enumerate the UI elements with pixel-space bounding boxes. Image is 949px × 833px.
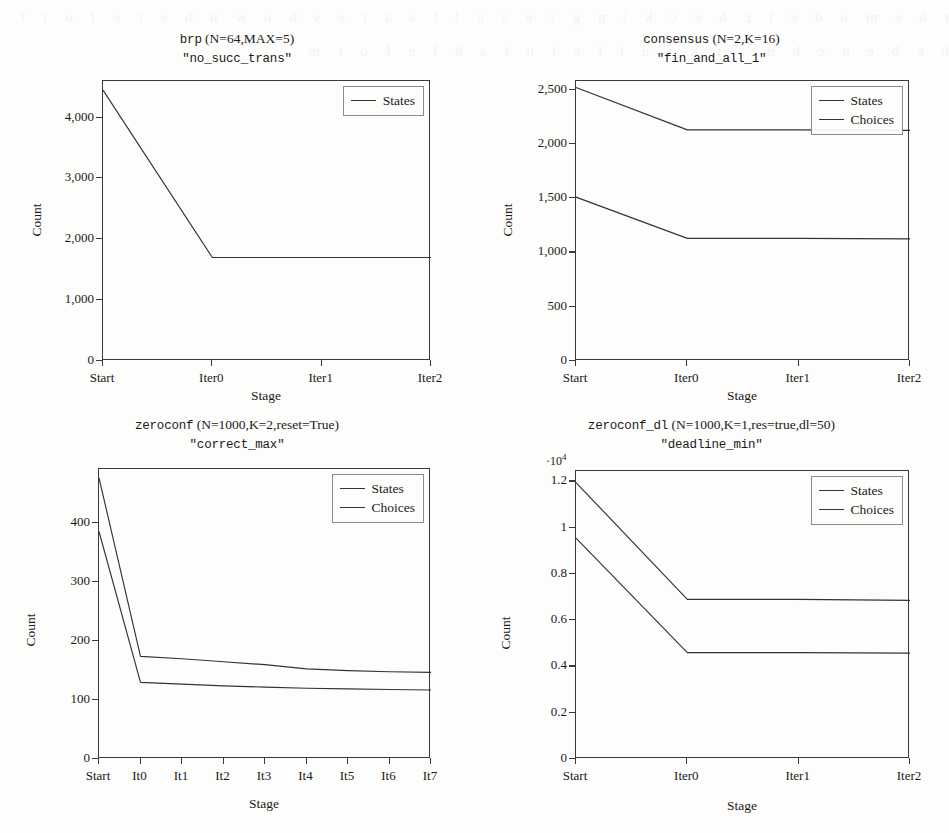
chart-title-block: zeroconf_dl (N=1000,K=1,res=true,dl=50) …	[474, 416, 949, 453]
chart-subtitle: "fin_and_all_1"	[474, 49, 949, 68]
x-axis-tick-mark	[181, 758, 182, 764]
chart-panel-consensus: consensus (N=2,K=16) "fin_and_all_1" Cou…	[474, 0, 949, 400]
chart-title-mono: zeroconf	[135, 419, 193, 433]
x-axis-tick-mark	[264, 758, 265, 764]
series-line-states	[576, 197, 910, 239]
y-axis-tick-mark	[96, 299, 102, 300]
series-canvas	[103, 81, 431, 361]
x-axis-tick-mark	[211, 360, 212, 366]
chart-legend: StatesChoices	[811, 476, 904, 525]
y-axis-tick-mark	[569, 573, 575, 574]
x-axis-tick-label: It6	[381, 768, 395, 784]
y-axis-tick-label: 400	[32, 514, 90, 530]
y-axis-tick-mark	[569, 306, 575, 307]
chart-panel-brp: brp (N=64,MAX=5) "no_succ_trans" Count S…	[0, 0, 474, 400]
x-axis-tick-label: It0	[132, 768, 146, 784]
legend-label: States	[851, 483, 883, 499]
chart-subtitle: "deadline_min"	[474, 435, 949, 454]
y-axis-tick-mark	[96, 238, 102, 239]
chart-title: consensus (N=2,K=16)	[474, 30, 949, 49]
exponent-base: ·10	[546, 454, 562, 468]
x-axis-tick-label: Iter2	[897, 768, 922, 784]
chart-subtitle-text: "fin_and_all_1"	[657, 52, 767, 66]
x-axis-tick-label: Iter0	[199, 370, 224, 386]
figure-grid: brp (N=64,MAX=5) "no_succ_trans" Count S…	[0, 0, 949, 833]
x-axis-tick-mark	[575, 360, 576, 366]
x-axis-tick-label: It2	[215, 768, 229, 784]
y-axis-tick-mark	[569, 197, 575, 198]
chart-subtitle-text: "no_succ_trans"	[182, 52, 292, 66]
legend-label: States	[851, 93, 883, 109]
y-axis-tick-mark	[92, 699, 98, 700]
series-line-states	[99, 531, 431, 690]
x-axis-tick-mark	[102, 360, 103, 366]
x-axis-tick-mark	[140, 758, 141, 764]
chart-title-rest: (N=1000,K=1,res=true,dl=50)	[668, 417, 835, 432]
chart-title: zeroconf_dl (N=1000,K=1,res=true,dl=50)	[474, 416, 949, 435]
legend-line-icon	[819, 100, 844, 101]
y-axis-tick-mark	[569, 251, 575, 252]
chart-title-rest: (N=1000,K=2,reset=True)	[193, 417, 339, 432]
y-axis-tick-label: 0.2	[509, 704, 567, 720]
y-axis-tick-mark	[569, 480, 575, 481]
y-axis-tick-mark	[569, 712, 575, 713]
y-axis-tick-label: 1.2	[509, 472, 567, 488]
chart-subtitle-text: "correct_max"	[190, 438, 285, 452]
legend-item[interactable]: Choices	[340, 498, 416, 517]
chart-title-mono: brp	[180, 33, 202, 47]
chart-panel-zeroconf: zeroconf (N=1000,K=2,reset=True) "correc…	[0, 400, 474, 833]
chart-subtitle: "correct_max"	[0, 435, 474, 454]
y-axis-tick-label: 100	[32, 691, 90, 707]
legend-item[interactable]: Choices	[819, 110, 895, 129]
y-axis-tick-label: 0	[509, 750, 567, 766]
x-axis-tick-label: Iter1	[308, 370, 333, 386]
legend-line-icon	[819, 490, 844, 491]
legend-item[interactable]: States	[351, 91, 415, 110]
x-axis-tick-mark	[321, 360, 322, 366]
chart-title-rest: (N=64,MAX=5)	[202, 31, 294, 46]
chart-title-block: zeroconf (N=1000,K=2,reset=True) "correc…	[0, 416, 474, 453]
legend-label: Choices	[372, 500, 416, 516]
chart-title: brp (N=64,MAX=5)	[0, 30, 474, 49]
plot-area-brp	[102, 80, 430, 360]
y-axis-tick-label: 2,000	[36, 230, 94, 246]
y-axis-tick-mark	[569, 527, 575, 528]
x-axis-tick-label: Iter1	[785, 768, 810, 784]
legend-item[interactable]: States	[819, 91, 895, 110]
x-axis-tick-mark	[430, 758, 431, 764]
y-axis-tick-mark	[96, 177, 102, 178]
series-line-states	[576, 538, 910, 653]
y-axis-tick-mark	[569, 143, 575, 144]
x-axis-tick-mark	[98, 758, 99, 764]
legend-label: States	[372, 481, 404, 497]
y-axis-label: Count	[29, 180, 45, 260]
y-axis-tick-mark	[569, 619, 575, 620]
chart-title: zeroconf (N=1000,K=2,reset=True)	[0, 416, 474, 435]
x-axis-tick-mark	[306, 758, 307, 764]
x-axis-tick-label: Iter0	[674, 370, 699, 386]
x-axis-tick-label: Start	[563, 370, 588, 386]
chart-title-mono: consensus	[643, 33, 709, 47]
x-axis-tick-mark	[686, 758, 687, 764]
y-axis-tick-label: 1	[509, 519, 567, 535]
y-axis-tick-label: 0.4	[509, 657, 567, 673]
x-axis-tick-label: It7	[423, 768, 437, 784]
y-axis-tick-mark	[92, 581, 98, 582]
y-axis-exponent-label: ·104	[546, 452, 567, 469]
y-axis-tick-label: 0	[509, 352, 567, 368]
legend-item[interactable]: States	[340, 479, 416, 498]
x-axis-tick-label: It3	[257, 768, 271, 784]
x-axis-tick-label: It5	[340, 768, 354, 784]
legend-item[interactable]: Choices	[819, 500, 895, 519]
y-axis-tick-mark	[96, 117, 102, 118]
x-axis-tick-label: Start	[86, 768, 111, 784]
x-axis-tick-label: Iter0	[674, 768, 699, 784]
x-axis-tick-mark	[223, 758, 224, 764]
y-axis-tick-label: 2,000	[509, 135, 567, 151]
x-axis-tick-label: It1	[174, 768, 188, 784]
legend-line-icon	[351, 100, 376, 101]
y-axis-tick-label: 2,500	[509, 81, 567, 97]
legend-item[interactable]: States	[819, 481, 895, 500]
exponent-power: 4	[562, 452, 567, 462]
y-axis-tick-label: 1,500	[509, 189, 567, 205]
